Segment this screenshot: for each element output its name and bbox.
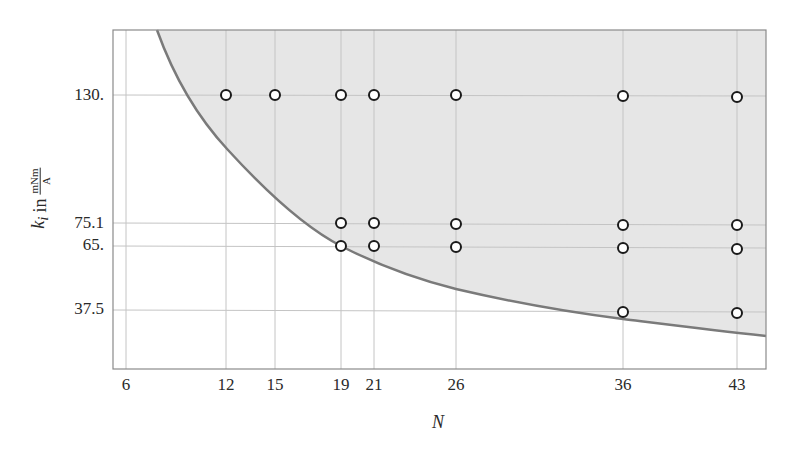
x-tick-label: 26	[448, 375, 465, 395]
y-tick-label: 65.	[44, 235, 104, 255]
y-axis-unit: mNm A	[29, 167, 52, 194]
y-axis-symbol: ki	[28, 216, 53, 228]
x-tick-label: 15	[267, 375, 284, 395]
x-tick-label: 36	[615, 375, 632, 395]
chart-plot	[0, 0, 798, 451]
y-tick-label: 130.	[44, 85, 104, 105]
y-axis-in: in	[30, 198, 51, 212]
x-tick-label: 21	[366, 375, 383, 395]
x-tick-label: 19	[333, 375, 350, 395]
y-axis-label: ki in mNm A	[28, 167, 53, 228]
x-tick-label: 43	[729, 375, 746, 395]
x-axis-label: N	[432, 412, 444, 433]
y-tick-label: 37.5	[44, 299, 104, 319]
x-tick-label: 6	[122, 375, 131, 395]
y-tick-label: 75.1	[44, 213, 104, 233]
x-tick-label: 12	[218, 375, 235, 395]
